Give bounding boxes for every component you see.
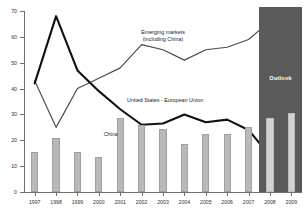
x-tick-label-2009: 2009 xyxy=(286,199,298,205)
y-tick-label-40: 40 xyxy=(11,86,17,92)
bar-2009 xyxy=(288,113,295,192)
bar-2008 xyxy=(266,118,273,192)
x-tick-2008 xyxy=(270,192,271,196)
x-tick-label-2005: 2005 xyxy=(200,199,212,205)
bar-2005 xyxy=(202,134,209,192)
x-tick-2004 xyxy=(184,192,185,196)
bar-2002 xyxy=(138,125,145,192)
bar-2001 xyxy=(117,118,124,192)
y-tick-50 xyxy=(20,63,24,64)
y-tick-60 xyxy=(20,37,24,38)
bar-1997 xyxy=(31,152,38,192)
y-tick-label-50: 50 xyxy=(11,60,17,66)
x-tick-1998 xyxy=(56,192,57,196)
x-tick-label-1998: 1998 xyxy=(50,199,62,205)
x-tick-2007 xyxy=(249,192,250,196)
bar-2000 xyxy=(95,157,102,192)
x-tick-label-2003: 2003 xyxy=(157,199,169,205)
united-states-european-union-label: United States - European Union xyxy=(127,97,203,104)
y-tick-label-10: 10 xyxy=(11,163,17,169)
y-axis-labels: 010203040506070 xyxy=(0,11,22,192)
y-tick-label-20: 20 xyxy=(11,137,17,143)
x-tick-label-1997: 1997 xyxy=(29,199,41,205)
emerging-markets-label: Emerging markets (including China) xyxy=(141,29,185,43)
y-tick-label-0: 0 xyxy=(14,189,17,195)
x-tick-2006 xyxy=(227,192,228,196)
y-tick-20 xyxy=(20,140,24,141)
x-tick-label-2001: 2001 xyxy=(114,199,126,205)
x-tick-label-2007: 2007 xyxy=(243,199,255,205)
y-tick-label-30: 30 xyxy=(11,111,17,117)
bar-1998 xyxy=(52,138,59,192)
y-tick-label-60: 60 xyxy=(11,34,17,40)
x-tick-2003 xyxy=(163,192,164,196)
x-tick-2009 xyxy=(291,192,292,196)
bar-1999 xyxy=(74,152,81,192)
x-tick-1999 xyxy=(77,192,78,196)
bar-2007 xyxy=(245,127,252,192)
y-tick-label-70: 70 xyxy=(11,8,17,14)
chart-figure: 010203040506070 Outlook 1997199819992000… xyxy=(0,0,306,211)
y-tick-30 xyxy=(20,114,24,115)
x-tick-label-1999: 1999 xyxy=(72,199,84,205)
y-tick-70 xyxy=(20,11,24,12)
bar-2004 xyxy=(181,144,188,192)
x-tick-2002 xyxy=(142,192,143,196)
x-tick-label-2002: 2002 xyxy=(136,199,148,205)
bar-2003 xyxy=(159,129,166,192)
x-tick-label-2008: 2008 xyxy=(264,199,276,205)
y-tick-40 xyxy=(20,89,24,90)
x-tick-2000 xyxy=(99,192,100,196)
x-tick-label-2000: 2000 xyxy=(93,199,105,205)
outlook-label: Outlook xyxy=(269,75,292,81)
x-tick-1997 xyxy=(35,192,36,196)
y-tick-0 xyxy=(20,192,24,193)
china-label: China xyxy=(104,130,118,137)
bar-2006 xyxy=(224,134,231,192)
y-tick-10 xyxy=(20,166,24,167)
x-tick-label-2006: 2006 xyxy=(221,199,233,205)
x-tick-2001 xyxy=(120,192,121,196)
x-tick-label-2004: 2004 xyxy=(179,199,191,205)
x-tick-2005 xyxy=(206,192,207,196)
